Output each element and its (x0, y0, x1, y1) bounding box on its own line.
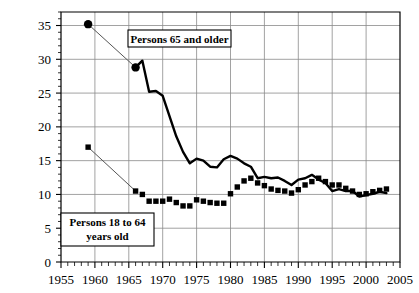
annotation-label-adults-line2: years old (86, 230, 128, 242)
data-point-marker-square (323, 179, 328, 184)
y-axis-tick-label: 25 (38, 86, 51, 101)
x-axis-tick-label: 1970 (150, 272, 176, 287)
data-point-marker-square (153, 198, 158, 203)
data-point-marker-circle (84, 20, 92, 28)
data-point-marker-square (363, 191, 368, 196)
y-axis-tick-label: 5 (45, 221, 52, 236)
annotation-persons-65-and-older: Persons 65 and older (128, 30, 231, 47)
data-point-marker-square (167, 196, 172, 201)
data-point-marker-square (228, 191, 233, 196)
data-point-marker-square (241, 178, 246, 183)
annotation-label-adults-line1: Persons 18 to 64 (69, 216, 146, 228)
y-axis-tick-label: 0 (45, 255, 52, 270)
x-axis-tick-label: 1985 (251, 272, 277, 287)
data-point-marker-square (377, 188, 382, 193)
data-point-marker-square (336, 182, 341, 187)
data-point-marker-square (330, 182, 335, 187)
x-axis-tick-label: 2005 (387, 272, 413, 287)
annotation-label-elderly: Persons 65 and older (130, 33, 228, 45)
data-point-marker-square (133, 188, 138, 193)
data-point-marker-square (262, 183, 267, 188)
x-axis-tick-label: 1965 (116, 272, 142, 287)
y-axis-tick-label: 20 (38, 119, 51, 134)
data-point-marker-square (221, 201, 226, 206)
data-point-marker-square (140, 192, 145, 197)
data-point-marker-square (248, 176, 253, 181)
data-point-marker-circle (131, 63, 139, 71)
data-point-marker-square (275, 188, 280, 193)
x-axis-tick-label: 2000 (353, 272, 379, 287)
data-point-marker-square (316, 176, 321, 181)
annotation-persons-18-to-64: Persons 18 to 64 years old (61, 213, 154, 246)
x-axis-tick-label: 1975 (184, 272, 210, 287)
data-point-marker-square (201, 198, 206, 203)
data-point-marker-square (384, 186, 389, 191)
data-point-marker-square (255, 180, 260, 185)
chart-container: 05101520253035 1955196019651970197519801… (0, 0, 419, 293)
data-point-marker-square (309, 179, 314, 184)
y-axis-tick-label: 35 (38, 18, 51, 33)
x-axis-tick-label: 1980 (218, 272, 244, 287)
y-axis-tick-label: 30 (38, 52, 51, 67)
x-axis-tick-label: 1990 (285, 272, 311, 287)
data-point-marker-square (282, 188, 287, 193)
data-point-marker-square (357, 192, 362, 197)
data-point-marker-square (343, 186, 348, 191)
data-point-marker-square (174, 200, 179, 205)
data-point-marker-square (180, 203, 185, 208)
data-point-marker-square (289, 190, 294, 195)
poverty-rate-line-chart: 05101520253035 1955196019651970197519801… (0, 0, 419, 293)
y-axis-tick-label: 15 (38, 153, 51, 168)
data-point-marker-square (160, 198, 165, 203)
y-axis-tick-label: 10 (38, 187, 51, 202)
data-point-marker-square (235, 184, 240, 189)
x-axis-tick-labels: 1955196019651970197519801985199019952000… (48, 272, 413, 287)
data-point-marker-square (207, 200, 212, 205)
data-point-marker-square (302, 182, 307, 187)
data-point-marker-square (146, 198, 151, 203)
data-point-marker-square (296, 187, 301, 192)
data-point-marker-square (214, 201, 219, 206)
x-axis-tick-label: 1995 (319, 272, 345, 287)
data-point-marker-square (194, 197, 199, 202)
data-point-marker-square (268, 186, 273, 191)
data-point-marker-square (187, 203, 192, 208)
data-point-marker-square (370, 189, 375, 194)
x-axis-tick-label: 1960 (82, 272, 108, 287)
data-point-marker-square (85, 144, 90, 149)
data-point-marker-square (350, 188, 355, 193)
x-axis-tick-label: 1955 (48, 272, 74, 287)
